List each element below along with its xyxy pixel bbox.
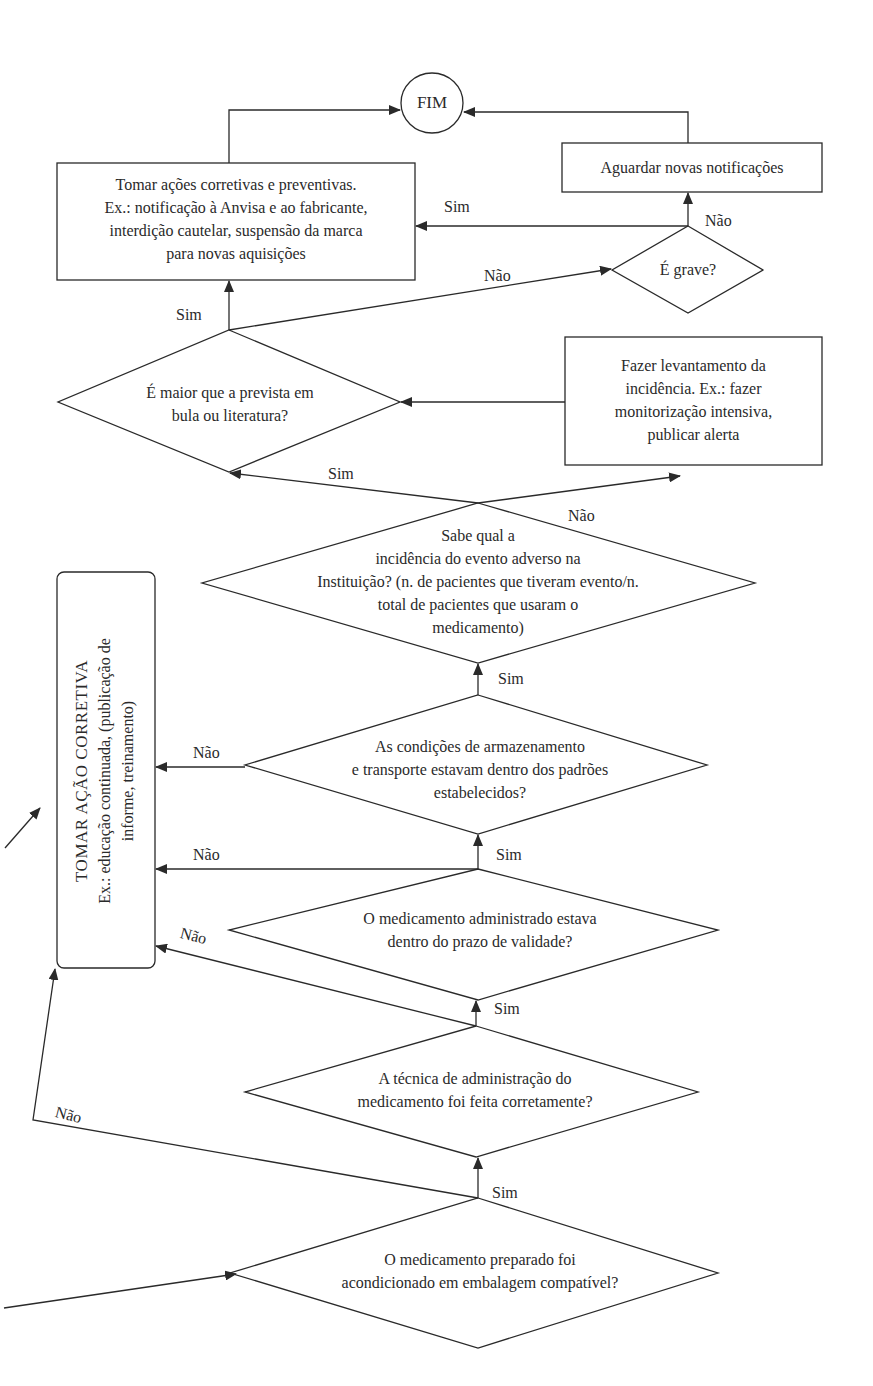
survey-incidence-line: publicar alerta [565, 423, 822, 446]
storage-conditions-line: e transporte estavam dentro dos padrões [270, 758, 690, 781]
edge-wait-to-end [464, 112, 688, 143]
greater-than-expected-text: É maior que a prevista em bula ou litera… [100, 381, 360, 427]
greater-than-expected-line: É maior que a prevista em [100, 381, 360, 404]
corrective-preventive-line: para novas aquisições [57, 242, 415, 265]
edge-label-storage-nao: Não [193, 742, 220, 764]
corrective-action-text: TOMAR AÇÃO CORRETIVA Ex.: educação conti… [70, 573, 142, 969]
edge-corrective-to-end [229, 110, 400, 163]
corrective-preventive-line: interdição cautelar, suspensão da marca [57, 219, 415, 242]
edge-label-technique-sim: Sim [494, 998, 520, 1020]
knows-incidence-line: Instituição? (n. de pacientes que tivera… [218, 570, 738, 593]
edge-label-expiry-nao: Não [193, 844, 220, 866]
knows-incidence-line: medicamento) [218, 616, 738, 639]
wait-notifications-label: Aguardar novas notificações [562, 157, 822, 179]
edge-label-grave-sim: Sim [444, 196, 470, 218]
edge-label-storage-sim: Sim [498, 668, 524, 690]
edge-label-sabe-nao: Não [568, 505, 595, 527]
storage-conditions-line: As condições de armazenamento [270, 735, 690, 758]
storage-conditions-line: estabelecidos? [270, 781, 690, 804]
knows-incidence-line: incidência do evento adverso na [218, 547, 738, 570]
edge-label-sabe-sim: Sim [328, 463, 354, 485]
edge-sabe-sim [230, 473, 478, 503]
within-expiry-line: O medicamento administrado estava [270, 907, 690, 930]
survey-incidence-text: Fazer levantamento da incidência. Ex.: f… [565, 354, 822, 446]
survey-incidence-line: incidência. Ex.: fazer [565, 377, 822, 400]
greater-than-expected-line: bula ou literatura? [100, 404, 360, 427]
edge-maior-nao [229, 269, 611, 330]
corrective-preventive-line: Ex.: notificação à Anvisa e ao fabricant… [57, 196, 415, 219]
edge-label-expiry-sim: Sim [496, 844, 522, 866]
edge-sabe-nao [478, 476, 680, 503]
corrective-action-line: informe, treinamento) [116, 573, 139, 969]
administration-technique-line: medicamento foi feita corretamente? [270, 1090, 680, 1113]
knows-incidence-line: total de pacientes que usaram o [218, 593, 738, 616]
knows-incidence-line: Sabe qual a [218, 524, 738, 547]
knows-incidence-text: Sabe qual a incidência do evento adverso… [218, 524, 738, 639]
compatible-packaging-line: O medicamento preparado foi [260, 1248, 700, 1271]
edge-label-maior-sim: Sim [176, 304, 202, 326]
within-expiry-text: O medicamento administrado estava dentro… [270, 907, 690, 953]
survey-incidence-line: monitorização intensiva, [565, 400, 822, 423]
administration-technique-text: A técnica de administração do medicament… [270, 1067, 680, 1113]
corrective-preventive-text: Tomar ações corretivas e preventivas. Ex… [57, 173, 415, 265]
compatible-packaging-line: acondicionado em embalagem compatível? [260, 1271, 700, 1294]
administration-technique-line: A técnica de administração do [270, 1067, 680, 1090]
corrective-preventive-line: Tomar ações corretivas e preventivas. [57, 173, 415, 196]
corrective-action-line: Ex.: educação continuada, (publicação de [93, 573, 116, 969]
storage-conditions-text: As condições de armazenamento e transpor… [270, 735, 690, 804]
edge-label-packaging-sim: Sim [492, 1182, 518, 1204]
survey-incidence-line: Fazer levantamento da [565, 354, 822, 377]
compatible-packaging-text: O medicamento preparado foi acondicionad… [260, 1248, 700, 1294]
is-serious-label: É grave? [630, 259, 746, 281]
within-expiry-line: dentro do prazo de validade? [270, 930, 690, 953]
corrective-action-title: TOMAR AÇÃO CORRETIVA [70, 573, 93, 969]
edge-incoming-offpage [5, 808, 40, 848]
edge-label-maior-nao: Não [484, 265, 511, 287]
edge-label-grave-nao: Não [705, 210, 732, 232]
end-node-label: FIM [402, 92, 462, 114]
edge-incoming-start [4, 1274, 236, 1308]
